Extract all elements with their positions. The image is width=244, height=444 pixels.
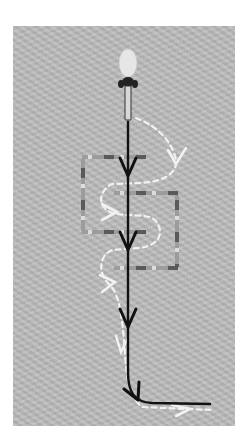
direct-path	[120, 122, 210, 404]
gate-right-side-pole	[175, 195, 179, 267]
skier-right-arm-icon	[132, 80, 138, 88]
gate-right-bottom-pole	[114, 266, 178, 270]
skis-icon	[125, 86, 131, 120]
dashed-arrow-4	[116, 336, 128, 352]
skier-figure	[118, 49, 138, 120]
gate-left-side-pole	[81, 159, 85, 231]
dashed-arrow-5	[172, 405, 190, 416]
gate-right-top-pole	[114, 191, 178, 195]
slalom-course-diagram	[0, 0, 244, 444]
dashed-arrow-1	[168, 148, 186, 164]
skier-left-arm-icon	[118, 80, 124, 88]
skier-helmet-icon	[119, 49, 137, 77]
